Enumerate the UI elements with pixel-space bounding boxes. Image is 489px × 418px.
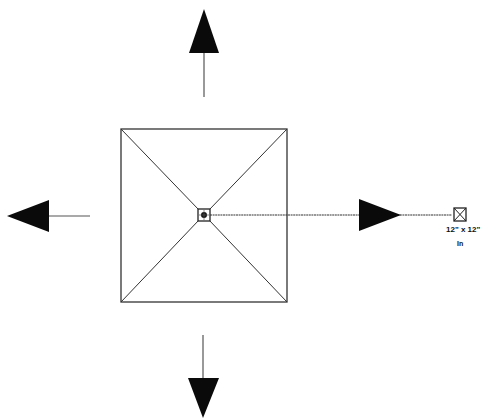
arrow-up-icon: [189, 9, 219, 97]
diagonal-tl: [121, 129, 199, 210]
diagonal-tr: [209, 129, 287, 210]
boxed-x-icon: [454, 208, 466, 221]
arrow-left-icon: [7, 200, 90, 232]
arrow-right-icon: [359, 199, 401, 231]
unit-label: In: [457, 240, 463, 247]
crosshair-box-icon: [198, 209, 210, 221]
diagonal-bl: [121, 220, 199, 302]
arrow-down-icon: [188, 335, 219, 418]
diagram-canvas: [0, 0, 489, 418]
size-label: 12" x 12": [446, 225, 480, 234]
diagonal-br: [209, 220, 287, 302]
